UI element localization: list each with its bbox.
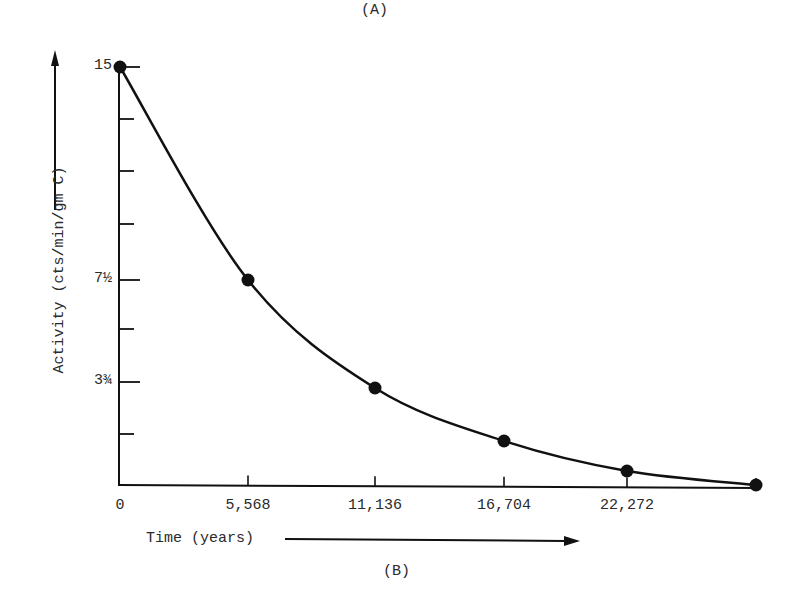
y-tick-label: 15 xyxy=(94,57,112,74)
data-point xyxy=(242,274,255,287)
x-tick-label: 16,704 xyxy=(477,497,531,514)
x-axis-title: Time (years) xyxy=(146,530,254,547)
x-tick-label: 11,136 xyxy=(348,497,402,514)
y-tick-label: 7½ xyxy=(94,270,112,287)
x-axis-line xyxy=(119,485,758,488)
y-tick-label: 3¾ xyxy=(94,372,112,389)
decay-chart xyxy=(0,0,805,613)
x-label-arrow-shaft xyxy=(285,539,566,541)
y-label-arrow-head-icon xyxy=(51,50,59,66)
y-axis-title: Activity (cts/min/gm C) xyxy=(51,166,68,373)
x-tick-label: 0 xyxy=(115,497,124,514)
data-point xyxy=(369,382,382,395)
x-label-arrow-head-icon xyxy=(564,536,580,546)
decay-curve xyxy=(120,67,756,485)
data-point xyxy=(621,465,634,478)
figure-label-b: (B) xyxy=(383,563,410,580)
data-point xyxy=(114,61,127,74)
x-tick-label: 5,568 xyxy=(225,497,270,514)
data-point xyxy=(750,479,763,492)
x-tick-label: 22,272 xyxy=(600,497,654,514)
data-point xyxy=(498,435,511,448)
